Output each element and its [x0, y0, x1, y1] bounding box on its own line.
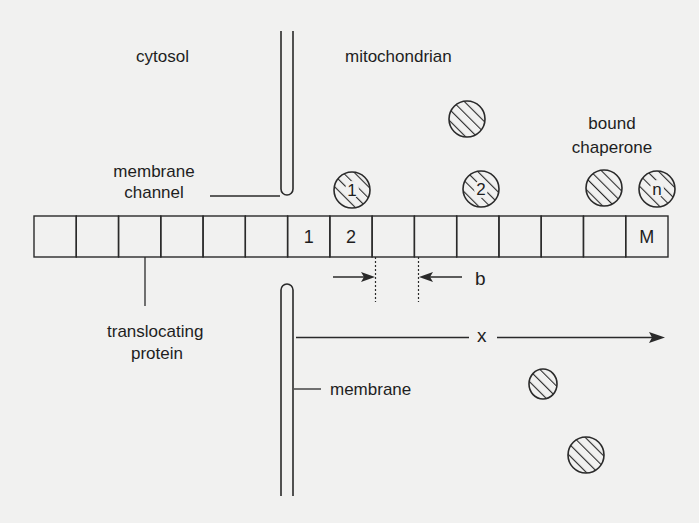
bound-chaperone-label-line1: bound: [557, 114, 667, 133]
chain-segment: [119, 216, 161, 257]
protein-chain: 12M: [34, 216, 668, 257]
chain-segment: [76, 216, 118, 257]
lower-membrane: [281, 284, 293, 496]
chaperone-label: n: [652, 180, 661, 199]
chain-segment: [161, 216, 203, 257]
membrane-label: membrane: [330, 380, 411, 399]
chain-segment-label: 1: [304, 227, 314, 247]
upper-membrane: [281, 31, 293, 195]
free-chaperone-icon: [449, 101, 485, 137]
chaperone-label: 2: [476, 180, 485, 199]
free-chaperone-icon: [568, 437, 604, 473]
translocating-protein-label-line2: protein: [131, 344, 183, 363]
chain-segment: [583, 216, 625, 257]
chain-segment-label: 2: [346, 227, 356, 247]
cytosol-label: cytosol: [136, 47, 189, 66]
chain-segment: [541, 216, 583, 257]
x-label: x: [477, 326, 487, 345]
chain-segment: [499, 216, 541, 257]
membrane-channel-label-line2: channel: [104, 183, 204, 202]
chain-segment: [414, 216, 456, 257]
b-label: b: [475, 269, 486, 288]
translocating-protein-label-line1: translocating: [107, 322, 203, 341]
bound-chaperone-label-line2: chaperone: [557, 138, 667, 157]
chain-segment: [457, 216, 499, 257]
free-chaperone-icon: [529, 369, 557, 399]
mitochondrian-label: mitochondrian: [345, 47, 452, 66]
chain-segment: [34, 216, 76, 257]
diagram-canvas: 12M 12n: [0, 0, 699, 523]
chain-segment-label: M: [639, 227, 654, 247]
chain-segment: [203, 216, 245, 257]
membrane-channel-label-line1: membrane: [104, 162, 204, 181]
chain-segment: [372, 216, 414, 257]
chain-segment: [245, 216, 287, 257]
bound-chaperone-icon: [586, 170, 622, 206]
chaperone-label: 1: [347, 181, 356, 200]
